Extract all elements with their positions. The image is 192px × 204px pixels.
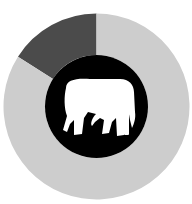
donut-chart: [0, 0, 192, 204]
